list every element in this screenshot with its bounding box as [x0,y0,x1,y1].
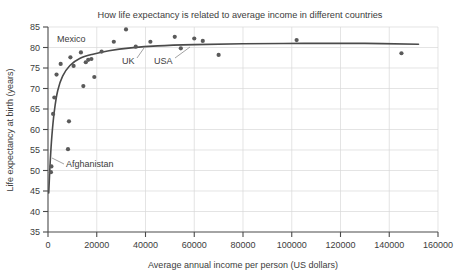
annotation-label-uk: UK [122,56,135,66]
data-point [295,38,299,42]
data-point [179,46,183,50]
x-axis-title: Average annual income per person (US dol… [148,260,338,270]
y-tick-label: 85 [30,22,40,32]
data-point [52,95,56,99]
data-point [192,36,196,40]
data-point [89,57,93,61]
y-axis-title: Life expectancy at birth (years) [5,68,15,191]
annotation-label-mexico: Mexico [57,34,86,44]
y-tick-label: 40 [30,207,40,217]
annotation-label-usa: USA [154,56,173,66]
data-point [81,84,85,88]
y-tick-label: 80 [30,43,40,53]
chart-canvas: How life expectancy is related to averag… [0,0,470,277]
data-point [92,75,96,79]
data-point [49,170,53,174]
y-tick-label: 65 [30,104,40,114]
data-point [173,35,177,39]
data-point [71,64,75,68]
data-point [79,50,83,54]
x-tick-label: 160000 [423,240,453,250]
x-tick-label: 120000 [325,240,355,250]
data-point [68,55,72,59]
y-tick-label: 55 [30,145,40,155]
y-tick-label: 35 [30,227,40,237]
data-point [49,164,53,168]
annotation-label-afghanistan: Afghanistan [66,159,114,169]
y-tick-label: 75 [30,63,40,73]
data-point [51,112,55,116]
data-point [148,40,152,44]
x-tick-label: 100000 [277,240,307,250]
y-tick-label: 60 [30,125,40,135]
x-tick-label: 20000 [84,240,109,250]
y-tick-label: 45 [30,186,40,196]
y-tick-label: 70 [30,84,40,94]
data-point [217,53,221,57]
data-point [399,51,403,55]
x-tick-label: 0 [45,240,50,250]
life-expectancy-scatter-chart: How life expectancy is related to averag… [0,0,470,277]
data-point [134,45,138,49]
y-tick-label: 50 [30,166,40,176]
data-point [201,39,205,43]
data-point [124,27,128,31]
x-tick-label: 140000 [374,240,404,250]
x-tick-label: 80000 [230,240,255,250]
chart-title: How life expectancy is related to averag… [98,10,383,20]
x-tick-label: 40000 [133,240,158,250]
data-point [112,40,116,44]
data-point [66,147,70,151]
x-tick-label: 60000 [182,240,207,250]
data-point [100,50,104,54]
data-point [67,119,71,123]
data-point [54,72,58,76]
data-point [59,62,63,66]
